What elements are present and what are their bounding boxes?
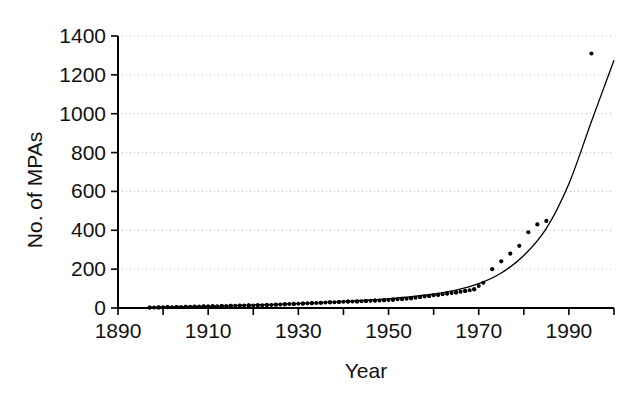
data-point <box>292 302 296 306</box>
y-axis-tick-label: 600 <box>71 179 106 202</box>
data-point <box>369 299 373 303</box>
data-point <box>472 287 476 291</box>
y-axis-tick-label: 800 <box>71 141 106 164</box>
data-point <box>468 288 472 292</box>
data-point <box>355 299 359 303</box>
data-point <box>332 300 336 304</box>
data-point <box>418 295 422 299</box>
x-axis-tick-label: 1950 <box>365 319 412 342</box>
data-point <box>423 295 427 299</box>
data-point <box>323 301 327 305</box>
x-axis-tick-label: 1890 <box>95 319 142 342</box>
data-point <box>247 303 251 307</box>
x-axis-tick-label: 1930 <box>275 319 322 342</box>
data-point <box>400 297 404 301</box>
data-point <box>405 297 409 301</box>
data-point <box>499 259 503 263</box>
data-point <box>314 301 318 305</box>
data-point <box>251 303 255 307</box>
data-point <box>242 304 246 308</box>
data-point <box>477 284 481 288</box>
data-point <box>341 300 345 304</box>
data-point <box>387 298 391 302</box>
x-axis-tick-label: 1910 <box>185 319 232 342</box>
data-point <box>382 298 386 302</box>
data-point <box>278 303 282 307</box>
data-point <box>445 292 449 296</box>
data-point <box>432 293 436 297</box>
y-axis-tick-label: 1000 <box>59 102 106 125</box>
data-point <box>265 303 269 307</box>
data-point <box>359 299 363 303</box>
data-point <box>346 300 350 304</box>
data-point <box>481 281 485 285</box>
data-point <box>450 291 454 295</box>
y-axis-tick-label: 0 <box>94 296 106 319</box>
data-point <box>414 296 418 300</box>
data-point <box>517 244 521 248</box>
data-point <box>274 303 278 307</box>
data-point <box>373 299 377 303</box>
data-point <box>269 303 273 307</box>
data-point <box>310 301 314 305</box>
data-point <box>283 302 287 306</box>
data-point <box>337 300 341 304</box>
data-point <box>378 298 382 302</box>
data-point <box>328 300 332 304</box>
data-point <box>409 296 413 300</box>
data-point <box>396 297 400 301</box>
x-axis-title: Year <box>345 359 387 382</box>
data-point <box>589 51 593 55</box>
data-point <box>427 294 431 298</box>
data-point <box>490 267 494 271</box>
x-axis-tick-label: 1970 <box>455 319 502 342</box>
data-point <box>459 290 463 294</box>
chart-figure: 0200400600800100012001400 18901910193019… <box>0 0 635 398</box>
data-point <box>296 302 300 306</box>
data-point <box>535 222 539 226</box>
chart-plot-area: 0200400600800100012001400 18901910193019… <box>0 0 635 398</box>
y-axis-tick-label: 400 <box>71 218 106 241</box>
data-point <box>319 301 323 305</box>
data-point <box>364 299 368 303</box>
data-point <box>301 302 305 306</box>
y-axis-tick-label: 1200 <box>59 63 106 86</box>
data-point <box>544 219 548 223</box>
x-axis-tick-label: 1990 <box>546 319 593 342</box>
data-point <box>526 230 530 234</box>
y-axis-title: No. of MPAs <box>23 132 46 248</box>
data-point <box>256 303 260 307</box>
data-point <box>441 292 445 296</box>
data-point <box>260 303 264 307</box>
data-point <box>508 252 512 256</box>
data-point <box>391 298 395 302</box>
data-point <box>436 293 440 297</box>
data-point <box>287 302 291 306</box>
data-point <box>463 289 467 293</box>
y-axis-tick-label: 200 <box>71 257 106 280</box>
data-point <box>350 299 354 303</box>
data-point <box>305 301 309 305</box>
data-point <box>454 290 458 294</box>
y-axis-tick-label: 1400 <box>59 24 106 47</box>
